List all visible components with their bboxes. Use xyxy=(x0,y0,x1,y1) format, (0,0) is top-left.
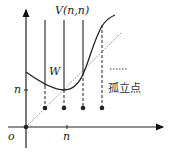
diagonal-dotted-line xyxy=(26,32,122,127)
region-label: W xyxy=(49,66,60,77)
y-tick-label: n xyxy=(14,84,21,95)
legend-text: 孤立点 xyxy=(108,83,141,94)
diagram-svg xyxy=(0,0,169,159)
origin-label: o xyxy=(8,131,15,142)
isolated-point-2 xyxy=(62,106,67,111)
isolated-point-4 xyxy=(100,106,105,111)
x-tick-label: n xyxy=(63,131,70,142)
isolated-point-3 xyxy=(81,106,86,111)
isolated-point-1 xyxy=(43,106,48,111)
origin-point xyxy=(24,125,29,130)
vertex-label: V(n,n) xyxy=(55,5,89,16)
